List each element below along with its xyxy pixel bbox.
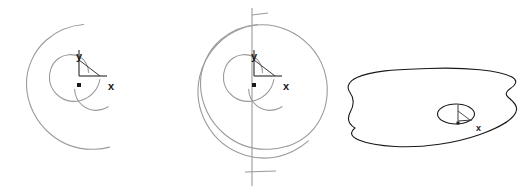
figure-canvas: y x y x x (0, 0, 524, 194)
y-axis-label-left: y (76, 50, 83, 62)
x-axis-label-middle: x (283, 80, 290, 92)
x-axis-label-right: x (476, 123, 481, 133)
origin-marker-right (457, 122, 460, 125)
origin-marker-middle (252, 83, 256, 87)
origin-marker-left (77, 83, 81, 87)
x-axis-label-left: x (108, 80, 115, 92)
y-axis-label-middle: y (251, 50, 258, 62)
